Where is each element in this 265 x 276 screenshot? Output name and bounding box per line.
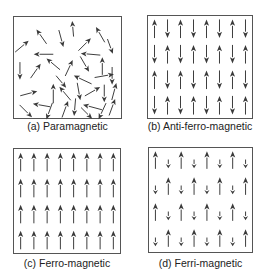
spin-arrow-icon [165, 96, 170, 115]
spin-field [14, 149, 120, 253]
spin-arrow-icon [71, 179, 76, 198]
spin-arrow-icon [204, 19, 209, 38]
spin-arrow-icon [230, 151, 235, 169]
spin-arrow-icon [20, 90, 37, 96]
spin-arrow-icon [217, 96, 222, 115]
spin-arrow-icon [179, 186, 184, 195]
spin-arrow-icon [36, 29, 46, 43]
spin-arrow-icon [204, 96, 209, 115]
spin-arrow-icon [178, 70, 183, 89]
spin-arrow-icon [243, 229, 248, 247]
spin-arrow-icon [84, 153, 89, 172]
spin-arrow-icon [204, 151, 209, 169]
spin-arrow-icon [84, 179, 89, 198]
spin-arrow-icon [217, 229, 222, 247]
spin-arrow-icon [18, 179, 23, 198]
spin-arrow-icon [46, 103, 52, 120]
spin-arrow-icon [192, 212, 197, 221]
spin-arrow-icon [243, 19, 248, 38]
spin-arrow-icon [204, 186, 209, 195]
spin-arrow-icon [178, 19, 183, 38]
spin-arrow-icon [58, 231, 63, 250]
spin-arrow-icon [111, 153, 116, 172]
spin-arrow-icon [217, 177, 222, 195]
spin-arrow-icon [153, 151, 158, 169]
spin-arrow-icon [58, 205, 63, 224]
spin-arrow-icon [33, 102, 50, 107]
spin-arrow-icon [59, 87, 70, 101]
spin-arrow-icon [165, 45, 170, 64]
spin-arrow-icon [81, 51, 101, 56]
spin-arrow-icon [71, 205, 76, 224]
caption-ferrimagnetic: (d) Ferri-magnetic [143, 257, 258, 269]
spin-arrow-icon [179, 151, 184, 169]
spin-arrow-icon [17, 62, 22, 80]
spin-arrow-icon [165, 19, 170, 38]
spin-arrow-icon [15, 41, 29, 52]
paramagnetic-box [13, 16, 122, 119]
spin-arrow-icon [112, 83, 118, 100]
spin-arrow-icon [191, 19, 196, 38]
spin-arrow-icon [51, 84, 56, 104]
spin-arrow-icon [178, 45, 183, 64]
spin-arrow-icon [153, 238, 158, 247]
spin-arrow-icon [56, 76, 66, 88]
spin-arrow-icon [166, 212, 171, 221]
spin-arrow-icon [179, 238, 184, 247]
spin-arrow-icon [217, 212, 222, 221]
spin-arrow-icon [72, 98, 77, 116]
spin-arrow-icon [70, 21, 75, 37]
spin-arrow-icon [243, 160, 248, 169]
spin-arrow-icon [71, 153, 76, 172]
spin-arrow-icon [217, 19, 222, 38]
spin-arrow-icon [204, 238, 209, 247]
spin-arrow-icon [204, 70, 209, 89]
spin-arrow-icon [243, 177, 248, 195]
spin-arrow-icon [100, 57, 105, 75]
spin-arrow-icon [165, 70, 170, 89]
spin-arrow-icon [20, 105, 32, 117]
spin-arrow-icon [243, 70, 248, 89]
spin-arrow-icon [45, 205, 50, 224]
spin-arrow-icon [34, 52, 54, 57]
caption-paramagnetic: (a) Paramagnetic [13, 120, 122, 132]
spin-field [148, 16, 252, 118]
spin-arrow-icon [77, 83, 82, 100]
spin-arrow-icon [83, 104, 102, 110]
spin-arrow-icon [192, 177, 197, 195]
spin-arrow-icon [217, 160, 222, 169]
spin-arrow-icon [179, 203, 184, 221]
spin-arrow-icon [78, 38, 90, 50]
spin-arrow-icon [99, 103, 106, 119]
spin-arrow-icon [230, 238, 235, 247]
spin-arrow-icon [81, 108, 92, 119]
spin-arrow-icon [98, 179, 103, 198]
spin-arrow-icon [95, 73, 114, 78]
spin-arrow-icon [230, 45, 235, 64]
spin-arrow-icon [111, 205, 116, 224]
spin-arrow-icon [31, 205, 36, 224]
spin-arrow-icon [166, 160, 171, 169]
spin-arrow-icon [45, 153, 50, 172]
spin-arrow-icon [191, 70, 196, 89]
spin-arrow-icon [192, 160, 197, 169]
caption-ferromagnetic: (c) Ferro-magnetic [13, 257, 121, 269]
spin-arrow-icon [58, 179, 63, 198]
spin-arrow-icon [243, 96, 248, 115]
spin-arrow-icon [62, 101, 68, 118]
spin-arrow-icon [107, 39, 113, 54]
spin-arrow-icon [230, 96, 235, 115]
spin-arrow-icon [230, 70, 235, 89]
ferrimagnetic-box [148, 147, 253, 253]
spin-arrow-icon [230, 186, 235, 195]
spin-arrow-icon [192, 229, 197, 247]
spin-arrow-icon [80, 56, 89, 71]
spin-arrow-icon [18, 153, 23, 172]
spin-arrow-icon [166, 229, 171, 247]
spin-arrow-icon [85, 87, 100, 96]
spin-arrow-icon [152, 45, 157, 64]
spin-arrow-icon [84, 231, 89, 250]
spin-arrow-icon [204, 203, 209, 221]
spin-arrow-icon [109, 99, 115, 116]
spin-arrow-icon [84, 205, 89, 224]
